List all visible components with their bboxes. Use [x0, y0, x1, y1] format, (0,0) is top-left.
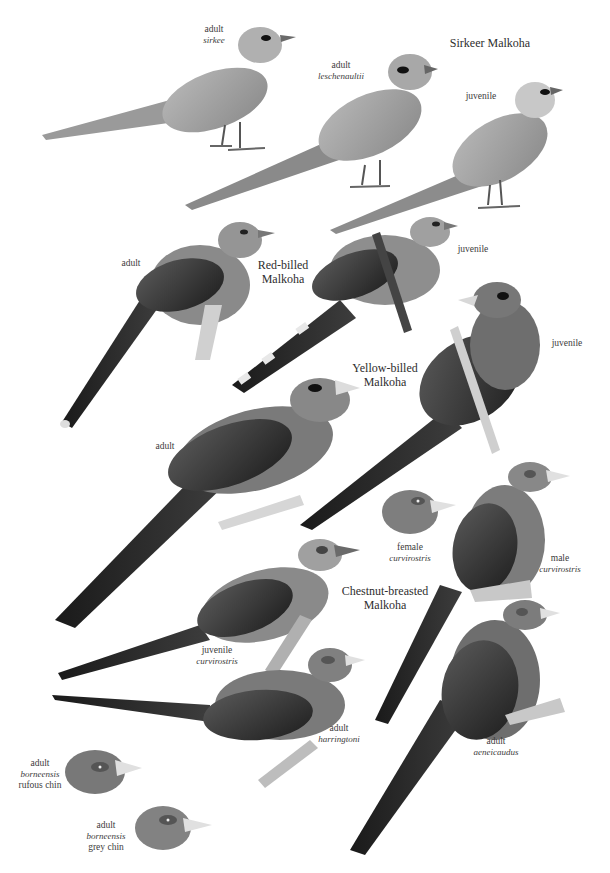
label-italic: harringtoni — [318, 734, 360, 745]
label-sirkeer-juvenile: juvenile — [466, 91, 497, 102]
label-roman: juvenile — [458, 244, 489, 255]
label-roman: adult — [318, 723, 360, 734]
label-yellow-billed-adult: adult — [156, 441, 175, 452]
label-italic: curvirostris — [539, 564, 581, 575]
bird-chestnut-adult-aeneicaudus — [350, 600, 565, 855]
label-roman: adult — [156, 441, 175, 452]
label-italic: borneensis — [18, 769, 61, 780]
label-chestnut-juvenile-curvirostris: juvenile curvirostris — [196, 645, 238, 667]
label-roman: adult — [122, 258, 141, 269]
species-title-chestnut-breasted: Chestnut-breasted Malkoha — [342, 584, 429, 612]
label-italic: curvirostris — [196, 656, 238, 667]
label-chestnut-female-curvirostris: female curvirostris — [389, 542, 431, 564]
label-yellow-billed-juvenile: juvenile — [552, 338, 583, 349]
label-chestnut-male-curvirostris: male curvirostris — [539, 553, 581, 575]
species-title-line: Chestnut-breasted — [342, 584, 429, 598]
label-chestnut-adult-aeneicaudus: adult aeneicaudus — [474, 736, 519, 758]
bird-sirkeer-adult-sirkee — [42, 27, 296, 150]
species-title-line: Sirkeer Malkoha — [450, 36, 530, 50]
species-title-line: Yellow-billed — [352, 361, 417, 375]
label-italic: borneensis — [87, 831, 126, 842]
label-sirkeer-adult-leschenaultii: adult leschenaultii — [318, 60, 364, 82]
illustration-plate — [0, 0, 610, 873]
label-sirkeer-adult-sirkee: adult sirkee — [203, 24, 225, 46]
label-roman: adult — [474, 736, 519, 747]
label-italic: aeneicaudus — [474, 747, 519, 758]
label-roman: female — [389, 542, 431, 553]
label-roman: adult — [318, 60, 364, 71]
label-extra: rufous chin — [18, 780, 61, 791]
species-title-line: Malkoha — [258, 272, 309, 286]
species-title-red-billed: Red-billed Malkoha — [258, 258, 309, 286]
label-roman: adult — [18, 758, 61, 769]
bird-chestnut-borneensis-grey-head — [135, 806, 212, 850]
label-roman: male — [539, 553, 581, 564]
label-roman: juvenile — [552, 338, 583, 349]
label-roman: adult — [87, 820, 126, 831]
bird-red-billed-adult — [60, 222, 275, 428]
bird-red-billed-juvenile — [232, 217, 458, 393]
label-roman: juvenile — [196, 645, 238, 656]
label-italic: leschenaultii — [318, 71, 364, 82]
label-chestnut-borneensis-grey: adult borneensis grey chin — [87, 820, 126, 853]
bird-chestnut-female-head — [382, 490, 456, 534]
label-italic: curvirostris — [389, 553, 431, 564]
label-red-billed-juvenile: juvenile — [458, 244, 489, 255]
label-chestnut-adult-harringtoni: adult harringtoni — [318, 723, 360, 745]
label-roman: juvenile — [466, 91, 497, 102]
label-red-billed-adult: adult — [122, 258, 141, 269]
species-title-yellow-billed: Yellow-billed Malkoha — [352, 361, 417, 389]
species-title-line: Red-billed — [258, 258, 309, 272]
label-roman: adult — [203, 24, 225, 35]
label-italic: sirkee — [203, 35, 225, 46]
label-extra: grey chin — [87, 842, 126, 853]
species-title-line: Malkoha — [342, 598, 429, 612]
species-title-sirkeer: Sirkeer Malkoha — [450, 36, 530, 50]
species-title-line: Malkoha — [352, 375, 417, 389]
bird-chestnut-borneensis-rufous-head — [65, 750, 142, 794]
label-chestnut-borneensis-rufous: adult borneensis rufous chin — [18, 758, 61, 791]
